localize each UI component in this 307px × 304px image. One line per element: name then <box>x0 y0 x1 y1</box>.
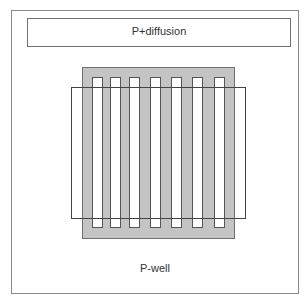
p-well-label: P-well <box>11 262 299 274</box>
p-diffusion-label: P+diffusion <box>27 18 291 47</box>
active-area-outline <box>71 87 246 219</box>
